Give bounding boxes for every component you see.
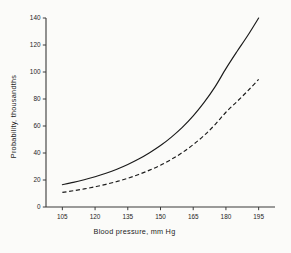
y-tick-label: 0 [37,203,41,210]
x-tick-label: 135 [122,213,133,220]
x-tick-label: 120 [90,213,101,220]
y-tick-label: 60 [33,122,41,129]
y-tick-label: 80 [33,95,41,102]
line-chart: 020406080100120140 105120135150165180195… [0,0,291,253]
chart-container: 020406080100120140 105120135150165180195… [0,0,291,253]
y-tick-label: 100 [30,68,41,75]
x-tick-label: 105 [57,213,68,220]
x-tick-label: 150 [155,213,166,220]
x-axis-title: Blood pressure, mm Hg [94,227,176,236]
x-tick-label: 195 [253,213,264,220]
x-tick-label: 180 [221,213,232,220]
x-tick-label: 165 [188,213,199,220]
y-tick-label: 20 [33,176,41,183]
y-tick-label: 120 [30,41,41,48]
y-tick-label: 40 [33,149,41,156]
y-tick-label: 140 [30,14,41,21]
y-axis-title: Probability, thousandths [9,75,18,158]
